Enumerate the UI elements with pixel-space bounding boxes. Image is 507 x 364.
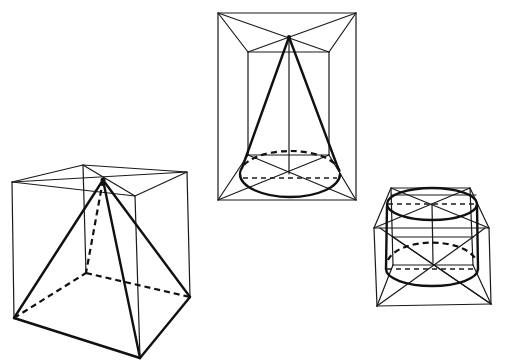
cylinder-in-box bbox=[374, 188, 491, 306]
box-wireframe bbox=[374, 188, 491, 306]
pyramid-in-cube bbox=[12, 165, 190, 358]
figure-canvas bbox=[0, 0, 507, 364]
pyramid bbox=[14, 178, 190, 359]
cone-in-box bbox=[218, 13, 356, 200]
